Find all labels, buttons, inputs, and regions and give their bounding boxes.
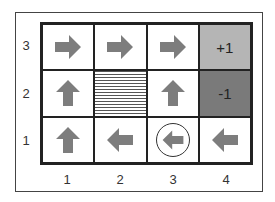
cell-3-3	[147, 24, 199, 70]
cell-1-3-circled	[147, 117, 199, 163]
cell-1-4	[199, 117, 251, 163]
cell-3-4-terminal-positive: +1	[199, 24, 251, 70]
cell-1-1	[42, 117, 94, 163]
row-label-2: 2	[20, 86, 32, 101]
col-label-3: 3	[163, 172, 183, 187]
arrow-right-icon	[158, 32, 188, 62]
arrow-left-icon	[105, 125, 135, 155]
col-label-1: 1	[57, 172, 77, 187]
arrow-right-icon	[53, 32, 83, 62]
row-label-3: 3	[20, 38, 32, 53]
highlight-circle	[156, 123, 190, 157]
col-label-4: 4	[216, 172, 236, 187]
cell-2-2-wall	[94, 70, 146, 116]
row-label-1: 1	[20, 133, 32, 148]
arrow-up-icon	[53, 78, 83, 108]
col-label-2: 2	[110, 172, 130, 187]
cell-1-2	[94, 117, 146, 163]
cell-2-4-terminal-negative: -1	[199, 70, 251, 116]
arrow-up-icon	[53, 125, 83, 155]
cell-3-2	[94, 24, 146, 70]
reward-label: -1	[218, 85, 231, 102]
cell-2-3	[147, 70, 199, 116]
gridworld-policy-grid: +1 -1	[40, 22, 253, 165]
arrow-left-icon	[210, 125, 240, 155]
arrow-up-icon	[158, 78, 188, 108]
reward-label: +1	[216, 39, 233, 56]
cell-3-1	[42, 24, 94, 70]
cell-2-1	[42, 70, 94, 116]
arrow-right-icon	[105, 32, 135, 62]
